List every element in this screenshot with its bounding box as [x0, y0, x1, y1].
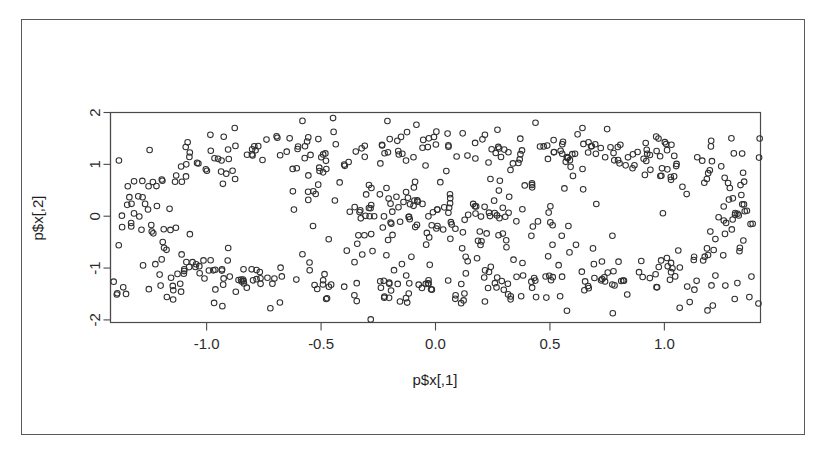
data-point: [481, 275, 487, 281]
data-point: [145, 207, 151, 213]
data-points-layer: [111, 115, 763, 322]
data-point: [406, 281, 412, 287]
data-point: [593, 151, 599, 157]
data-point: [488, 264, 494, 270]
data-point: [279, 274, 285, 280]
data-point: [218, 169, 224, 175]
data-point: [268, 305, 274, 311]
data-point: [480, 137, 486, 143]
data-point: [477, 229, 483, 235]
data-point: [647, 275, 653, 281]
data-point: [677, 305, 683, 311]
data-point: [642, 172, 648, 178]
data-point: [221, 276, 227, 282]
data-point: [604, 126, 610, 132]
data-point: [640, 274, 646, 280]
data-point: [142, 201, 148, 207]
data-point: [520, 260, 526, 266]
x-tick-label: -0.5: [308, 335, 334, 352]
data-point: [354, 241, 360, 247]
data-point: [380, 225, 386, 231]
data-point: [260, 157, 266, 163]
data-point: [500, 205, 506, 211]
data-point: [453, 226, 459, 232]
data-point: [739, 192, 745, 198]
data-point: [735, 280, 741, 286]
data-point: [378, 285, 384, 291]
data-point: [221, 134, 227, 140]
data-point: [522, 183, 528, 189]
data-point: [453, 293, 459, 299]
data-point: [178, 289, 184, 295]
data-point: [438, 179, 444, 185]
data-point: [658, 258, 664, 264]
data-point: [131, 211, 137, 217]
data-point: [537, 144, 543, 150]
data-point: [119, 213, 125, 219]
data-point: [497, 178, 503, 184]
data-point: [173, 173, 179, 179]
data-point: [277, 152, 283, 158]
data-point: [720, 253, 726, 259]
data-point: [462, 217, 468, 223]
data-point: [454, 154, 460, 160]
data-point: [409, 254, 415, 260]
data-point: [277, 300, 283, 306]
data-point: [158, 283, 164, 289]
data-point: [495, 127, 501, 133]
data-point: [425, 144, 431, 150]
data-point: [473, 156, 479, 162]
data-point: [740, 170, 746, 176]
data-point: [153, 261, 159, 267]
data-point: [474, 255, 480, 261]
y-tick-label: -2: [86, 313, 103, 326]
data-point: [445, 278, 451, 284]
data-point: [307, 268, 313, 274]
data-point: [575, 132, 581, 138]
x-tick-label: 0.0: [425, 335, 446, 352]
data-point: [390, 232, 396, 238]
data-point: [225, 258, 231, 264]
data-point: [362, 154, 368, 160]
data-point: [729, 136, 735, 142]
data-point: [709, 283, 715, 289]
data-point: [516, 160, 522, 166]
data-point: [580, 125, 586, 131]
data-point: [123, 291, 129, 297]
data-point: [737, 245, 743, 251]
data-point: [396, 204, 402, 210]
data-point: [419, 285, 425, 291]
data-point: [664, 255, 670, 261]
data-point: [147, 147, 153, 153]
data-point: [677, 265, 683, 271]
x-axis: -1.0-0.50.00.51.0: [194, 323, 675, 352]
data-point: [659, 166, 665, 172]
data-point: [220, 303, 226, 309]
data-point: [739, 151, 745, 157]
data-point: [580, 166, 586, 172]
data-point: [225, 147, 231, 153]
data-point: [564, 308, 570, 314]
data-point: [705, 308, 711, 314]
data-point: [377, 192, 383, 198]
data-point: [566, 223, 572, 229]
data-point: [187, 231, 193, 237]
data-point: [352, 259, 358, 265]
data-point: [220, 282, 226, 288]
data-point: [570, 173, 576, 179]
data-point: [644, 147, 650, 153]
data-point: [498, 154, 504, 160]
data-point: [159, 257, 165, 263]
data-point: [669, 142, 675, 148]
data-point: [426, 136, 432, 142]
data-point: [680, 184, 686, 190]
screenshot-page: -2-1012 -1.0-0.50.00.51.0 p$x[,1] p$x[,2…: [0, 0, 818, 454]
data-point: [548, 203, 554, 209]
data-point: [315, 182, 321, 188]
data-point: [220, 181, 226, 187]
data-point: [694, 154, 700, 160]
data-point: [581, 141, 587, 147]
data-point: [233, 289, 239, 295]
data-point: [684, 284, 690, 290]
data-point: [573, 242, 579, 248]
